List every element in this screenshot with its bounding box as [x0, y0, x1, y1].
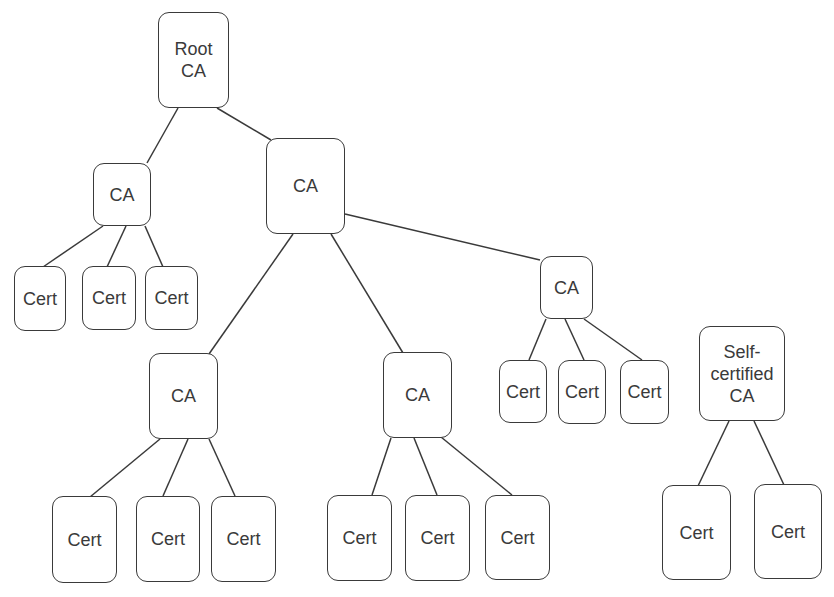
node-label: Cert — [420, 527, 454, 549]
node-label: CA — [109, 184, 134, 206]
node-label: Cert — [154, 287, 188, 309]
ca-node-ca_l: CA — [93, 163, 151, 226]
edge-ca_bm-c11 — [414, 438, 437, 495]
edge-ca_bm-c10 — [372, 438, 391, 495]
ca-hierarchy-diagram: Root CACACACACACASelf- certified CACertC… — [0, 0, 834, 597]
node-label: Cert — [92, 287, 126, 309]
edge-ca_r-c5 — [565, 319, 584, 360]
cert-node-c9: Cert — [211, 496, 276, 582]
edge-self-c13 — [698, 421, 729, 486]
edge-ca_l-c1 — [43, 226, 103, 267]
node-label: Cert — [23, 288, 57, 310]
cert-node-c4: Cert — [499, 360, 547, 423]
edge-ca_bl-c9 — [209, 439, 235, 496]
cert-node-c2: Cert — [82, 266, 136, 330]
cert-node-c6: Cert — [620, 360, 669, 424]
edge-ca_m-ca_bm — [331, 234, 403, 353]
cert-node-c5: Cert — [558, 360, 606, 424]
edge-ca_r-c4 — [529, 319, 546, 360]
node-label: Self- certified CA — [710, 341, 773, 407]
cert-node-c1: Cert — [14, 266, 66, 331]
cert-node-c11: Cert — [405, 495, 470, 581]
ca-node-ca_r: CA — [540, 256, 593, 319]
cert-node-c14: Cert — [754, 484, 822, 579]
node-label: Cert — [226, 528, 260, 550]
node-label: Cert — [342, 527, 376, 549]
edge-root-ca_l — [147, 108, 178, 163]
node-label: Cert — [679, 522, 713, 544]
node-label: Cert — [627, 381, 661, 403]
edge-ca_m-ca_bl — [209, 234, 293, 354]
cert-node-c10: Cert — [327, 495, 392, 581]
edge-root-ca_m — [217, 108, 271, 140]
cert-node-c8: Cert — [136, 496, 200, 582]
edge-ca_bl-c7 — [90, 439, 160, 497]
cert-node-c12: Cert — [485, 495, 550, 580]
node-label: Root CA — [174, 38, 212, 82]
edge-ca_bm-c12 — [441, 437, 512, 495]
node-label: CA — [405, 384, 430, 406]
self-certified-ca-node-self: Self- certified CA — [699, 326, 785, 421]
ca-node-root: Root CA — [158, 12, 229, 108]
node-label: CA — [554, 277, 579, 299]
edge-ca_bl-c8 — [163, 439, 188, 496]
ca-node-ca_m: CA — [266, 138, 345, 234]
node-label: Cert — [67, 529, 101, 551]
edge-self-c14 — [754, 421, 784, 485]
node-label: Cert — [771, 521, 805, 543]
ca-node-ca_bm: CA — [383, 352, 452, 438]
node-label: Cert — [506, 381, 540, 403]
ca-node-ca_bl: CA — [149, 353, 218, 439]
cert-node-c7: Cert — [52, 496, 117, 583]
node-label: Cert — [500, 527, 534, 549]
cert-node-c13: Cert — [662, 485, 731, 580]
node-label: Cert — [565, 381, 599, 403]
edge-ca_l-c2 — [107, 226, 126, 267]
edge-ca_l-c3 — [145, 226, 163, 267]
edge-ca_m-ca_r — [345, 214, 540, 260]
edge-ca_r-c6 — [584, 319, 642, 360]
node-label: CA — [293, 175, 318, 197]
node-label: Cert — [151, 528, 185, 550]
cert-node-c3: Cert — [145, 266, 198, 330]
node-label: CA — [171, 385, 196, 407]
